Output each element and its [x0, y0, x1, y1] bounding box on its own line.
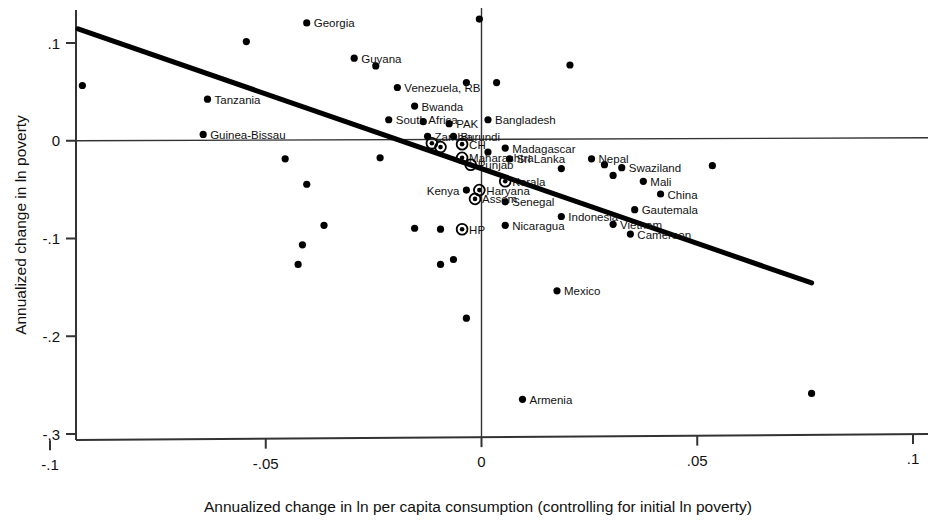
point-label: Bangladesh: [495, 114, 556, 126]
point-dot: [460, 156, 465, 161]
point-dot: [411, 225, 418, 232]
point-dot: [299, 241, 306, 248]
data-point: [640, 178, 647, 185]
point-dot: [385, 116, 392, 123]
point-label: Swaziland: [629, 162, 681, 174]
data-point: [303, 181, 310, 188]
data-point: [200, 131, 207, 138]
point-dot: [460, 227, 465, 232]
data-point: [463, 187, 470, 194]
data-point: [385, 116, 392, 123]
data-point: [303, 19, 310, 26]
point-dot: [204, 96, 211, 103]
point-dot: [502, 144, 509, 151]
point-dot: [376, 154, 383, 161]
x-tick-label: -.1: [41, 456, 59, 473]
point-dot: [295, 261, 302, 268]
data-point: [553, 287, 560, 294]
data-point: [299, 241, 306, 248]
data-point: [243, 38, 250, 45]
x-tick-label: -.05: [253, 455, 279, 472]
point-dot: [79, 82, 86, 89]
data-point: [657, 190, 664, 197]
y-tick-label: 0: [52, 132, 60, 149]
x-tick-label: .05: [687, 452, 708, 469]
x-axis-title: Annualized change in ln per capita consu…: [204, 498, 752, 515]
point-label: Guinea-Bissau: [210, 129, 285, 141]
data-point: [295, 261, 302, 268]
point-dot: [437, 261, 444, 268]
y-tick-label: -.1: [42, 230, 60, 247]
point-dot: [477, 188, 482, 193]
data-point: [588, 155, 595, 162]
point-dot: [558, 165, 565, 172]
point-dot: [411, 102, 418, 109]
point-dot: [320, 222, 327, 229]
data-point: [709, 162, 716, 169]
data-point: [437, 261, 444, 268]
point-dot: [303, 19, 310, 26]
point-label: PAK: [456, 118, 478, 130]
point-label: HP: [469, 224, 485, 236]
data-point: [566, 61, 573, 68]
point-dot: [553, 287, 560, 294]
point-dot: [450, 256, 457, 263]
data-point: [627, 231, 634, 238]
data-point: [484, 116, 491, 123]
point-label: Georgia: [314, 17, 356, 29]
data-point: [463, 315, 470, 322]
point-label: Sri Lanka: [517, 153, 566, 165]
data-point: [282, 155, 289, 162]
data-point: [437, 226, 444, 233]
point-dot: [502, 222, 509, 229]
point-dot: [430, 141, 435, 146]
point-label: Cameroon: [637, 229, 691, 241]
point-dot: [709, 162, 716, 169]
point-dot: [631, 206, 638, 213]
data-point: [558, 165, 565, 172]
point-dot: [657, 190, 664, 197]
point-dot: [476, 15, 483, 22]
point-dot: [808, 390, 815, 397]
point-dot: [463, 187, 470, 194]
data-point: [808, 390, 815, 397]
point-label: China: [668, 189, 699, 201]
point-dot: [627, 231, 634, 238]
point-label: Nepal: [599, 153, 629, 165]
point-dot: [351, 55, 358, 62]
data-point: [411, 102, 418, 109]
data-point: [320, 222, 327, 229]
data-point: [411, 225, 418, 232]
point-label: Bwanda: [422, 101, 464, 113]
scatter-plot-figure: GeorgiaGuyanaVenezuela, RBTanzaniaBwanda…: [0, 0, 932, 528]
point-dot: [640, 178, 647, 185]
point-dot: [493, 79, 500, 86]
point-label: Indonesia: [568, 211, 618, 223]
y-tick-label: -.2: [42, 328, 60, 345]
point-label: CH: [469, 139, 486, 151]
point-dot: [484, 116, 491, 123]
data-point: [376, 154, 383, 161]
point-label: Guyana: [361, 53, 402, 65]
y-tick-label: .1: [47, 35, 60, 52]
x-tick-label: 0: [477, 453, 485, 470]
y-axis-title: Annualized change in ln poverty: [12, 115, 29, 335]
point-label: Armenia: [529, 394, 572, 406]
data-point: [450, 256, 457, 263]
point-dot: [394, 84, 401, 91]
point-dot: [588, 155, 595, 162]
point-dot: [519, 396, 526, 403]
point-label: Senegal: [512, 196, 554, 208]
chart-canvas: GeorgiaGuyanaVenezuela, RBTanzaniaBwanda…: [0, 0, 932, 528]
point-dot: [503, 179, 508, 184]
point-dot: [438, 145, 443, 150]
point-dot: [243, 38, 250, 45]
point-dot: [200, 131, 207, 138]
point-dot: [303, 181, 310, 188]
data-point: [631, 206, 638, 213]
point-label: Punjab: [478, 159, 514, 171]
point-label: Nicaragua: [512, 220, 565, 232]
data-point: [610, 172, 617, 179]
point-dot: [437, 226, 444, 233]
data-point: [519, 396, 526, 403]
